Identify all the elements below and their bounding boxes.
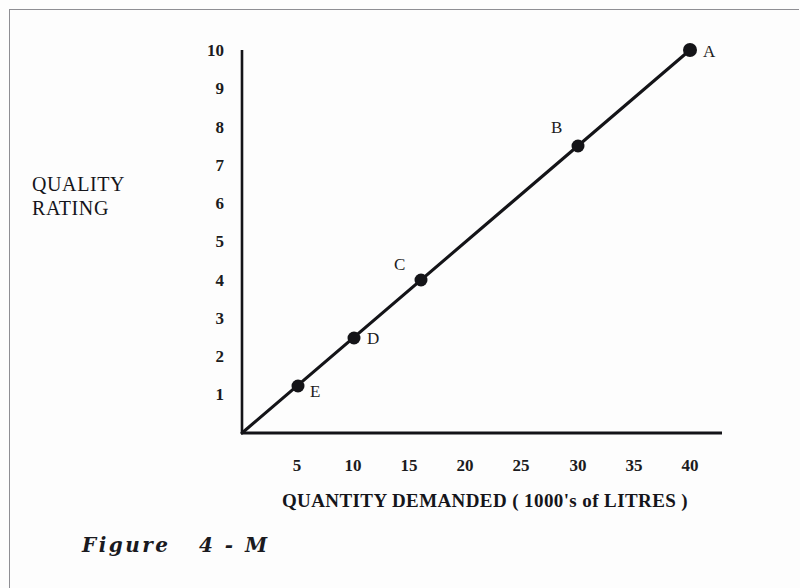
chart-canvas: 10 9 8 7 6 5 4 3 2 1 5 10 15 20 25 30 35… <box>0 0 800 588</box>
data-point-c <box>415 274 428 287</box>
y-axis-title: QUALITY RATING <box>32 172 125 221</box>
y-tick-3: 3 <box>190 310 224 327</box>
data-point-a <box>683 43 697 57</box>
y-tick-7: 7 <box>190 157 224 174</box>
y-tick-1: 1 <box>190 386 224 403</box>
x-tick-35: 35 <box>614 457 654 474</box>
y-tick-5: 5 <box>190 233 224 250</box>
data-point-b <box>572 140 585 153</box>
figure-page: 10 9 8 7 6 5 4 3 2 1 5 10 15 20 25 30 35… <box>0 0 800 588</box>
y-tick-6: 6 <box>190 195 224 212</box>
y-tick-10: 10 <box>190 42 224 59</box>
data-line <box>242 50 690 433</box>
x-tick-40: 40 <box>670 457 710 474</box>
y-tick-4: 4 <box>190 272 224 289</box>
y-tick-8: 8 <box>190 119 224 136</box>
data-point-d <box>348 332 361 345</box>
y-tick-9: 9 <box>190 80 224 97</box>
point-label-a: A <box>703 43 715 60</box>
point-label-d: D <box>367 330 379 347</box>
point-label-b: B <box>551 119 562 136</box>
x-tick-15: 15 <box>389 457 429 474</box>
x-tick-30: 30 <box>558 457 598 474</box>
point-label-c: C <box>394 256 405 273</box>
x-tick-20: 20 <box>445 457 485 474</box>
x-tick-10: 10 <box>333 457 373 474</box>
figure-caption: Figure 4 - M <box>82 533 270 557</box>
data-point-e <box>292 380 305 393</box>
x-tick-5: 5 <box>277 457 317 474</box>
y-tick-2: 2 <box>190 348 224 365</box>
x-tick-25: 25 <box>501 457 541 474</box>
x-axis-title: QUANTITY DEMANDED ( 1000's of LITRES ) <box>225 490 745 512</box>
point-label-e: E <box>310 383 320 400</box>
